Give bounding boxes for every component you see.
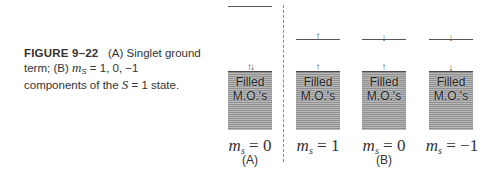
ms-var: m	[297, 136, 309, 155]
caption-text-2: term; (B)	[24, 62, 69, 74]
caption-line-2: term; (B) mS = 1, 0, −1	[24, 61, 219, 79]
filled-text: Filled	[429, 75, 473, 89]
ms-label: ms = −1	[417, 136, 487, 156]
filled-mo-label: Filled M.O.'s	[296, 75, 340, 103]
caption-line-3: components of the S = 1 state.	[24, 78, 219, 93]
caption-line-1: FIGURE 9–22 (A) Singlet ground	[24, 47, 219, 61]
figure-number: FIGURE 9–22	[24, 47, 98, 59]
caption-text-3: components of the	[24, 79, 122, 91]
filled-mo-box: Filled M.O.'s	[228, 71, 272, 130]
ms-value: = 1	[313, 136, 340, 155]
mo-text: M.O.'s	[228, 89, 272, 103]
ms-label: ms = 1	[283, 136, 353, 156]
mo-text: M.O.'s	[362, 89, 406, 103]
filled-text: Filled	[228, 75, 272, 89]
filled-mo-box: Filled M.O.'s	[296, 71, 340, 130]
spin-down-arrow-icon: ↓	[441, 33, 461, 43]
ms-var: m	[426, 136, 438, 155]
caption-text-3b: = 1 state.	[128, 79, 179, 91]
mo-text: M.O.'s	[296, 89, 340, 103]
filled-text: Filled	[296, 75, 340, 89]
figure-caption: FIGURE 9–22 (A) Singlet ground term; (B)…	[24, 47, 219, 93]
panel-a-label: (A)	[230, 153, 270, 167]
spin-up-arrow-icon: ↑	[308, 31, 328, 41]
spin-down-arrow-icon: ↓	[374, 33, 394, 43]
mo-text: M.O.'s	[429, 89, 473, 103]
filled-mo-label: Filled M.O.'s	[429, 75, 473, 103]
caption-text-2b: = 1, 0, −1	[87, 62, 139, 74]
empty-upper-level	[228, 6, 272, 7]
filled-mo-label: Filled M.O.'s	[362, 75, 406, 103]
filled-mo-box: Filled M.O.'s	[429, 71, 473, 130]
filled-mo-box: Filled M.O.'s	[362, 71, 406, 130]
filled-text: Filled	[362, 75, 406, 89]
filled-mo-label: Filled M.O.'s	[228, 75, 272, 103]
caption-text-1: (A) Singlet ground	[108, 47, 201, 59]
ms-symbol: m	[72, 60, 81, 75]
ms-value: = −1	[442, 136, 478, 155]
panel-b-label: (B)	[364, 153, 404, 167]
